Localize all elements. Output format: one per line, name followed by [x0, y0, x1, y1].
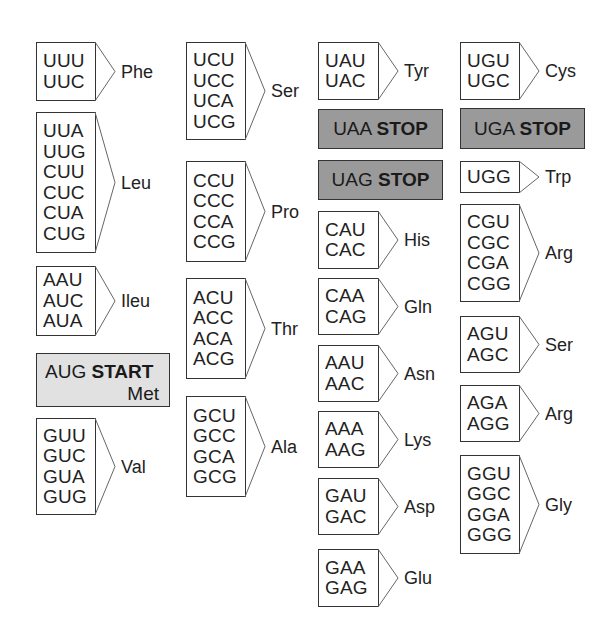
amino-acid-label: Gly: [545, 494, 572, 515]
codon: CCA: [193, 212, 245, 233]
codon: CGG: [467, 274, 519, 295]
codon: GAU: [325, 486, 378, 507]
bracket-chevron-icon: [245, 161, 267, 262]
amino-acid-label: Asn: [404, 363, 435, 384]
codon-group: GGUGGCGGAGGGGly: [460, 455, 600, 554]
codon: CUC: [43, 183, 95, 204]
codon: GAG: [325, 578, 378, 599]
codon-group: AAUAACAsn: [318, 345, 458, 402]
codon-group: UUAUUGCUUCUCCUACUGLeu: [36, 112, 176, 253]
codon-box: AAAAAG: [318, 411, 379, 468]
codon: UAG: [332, 169, 373, 190]
codon: GAC: [325, 507, 378, 528]
bracket-chevron-icon: [378, 411, 400, 468]
codon: CCU: [193, 171, 245, 192]
codon: UAU: [325, 51, 378, 72]
amino-acid-label: Thr: [271, 318, 298, 339]
codon-group: GAAGAGGlu: [318, 549, 458, 607]
codon: UGA: [474, 118, 514, 139]
codon: UGC: [467, 71, 519, 92]
codon-box: UUAUUGCUUCUCCUACUG: [36, 112, 96, 253]
codon: AAU: [43, 270, 95, 291]
codon-group: UUUUUCPhe: [36, 42, 176, 101]
codon: UGG: [467, 167, 519, 188]
codon: AGC: [467, 345, 519, 366]
stop-label: STOP: [376, 118, 427, 139]
codon: UAA: [333, 118, 371, 139]
codon-group: UGUUGCCys: [460, 42, 600, 100]
codon-group: UGGTrp: [460, 161, 600, 193]
bracket-chevron-icon: [378, 345, 400, 402]
bracket-chevron-icon: [95, 112, 117, 253]
bracket-chevron-icon: [245, 42, 267, 140]
codon: CAG: [325, 307, 378, 328]
codon: UUA: [43, 121, 95, 142]
codon: CAA: [325, 286, 378, 307]
codon: UGU: [467, 51, 519, 72]
codon-box: CAUCAC: [318, 211, 379, 269]
codon-box: UGUUGC: [460, 42, 520, 100]
codon: UUG: [43, 142, 95, 163]
codon-box: UUUUUC: [36, 42, 96, 101]
codon-box: AGAAGG: [460, 385, 520, 442]
codon: AUA: [43, 311, 95, 332]
codon: CAC: [325, 240, 378, 261]
codon: AAC: [325, 374, 378, 395]
codon-group: CCUCCCCCACCGPro: [186, 161, 326, 262]
codon: UCA: [193, 91, 245, 112]
bracket-chevron-icon: [378, 278, 400, 335]
codon: AUC: [43, 291, 95, 312]
codon-box: GCUGCCGCAGCG: [186, 396, 246, 497]
codon: CUG: [43, 224, 95, 245]
amino-acid-label: Ser: [271, 81, 299, 102]
codon: CGU: [467, 212, 519, 233]
codon: CCC: [193, 191, 245, 212]
codon: CGC: [467, 233, 519, 254]
codon: CUU: [43, 162, 95, 183]
amino-acid-label: Lys: [404, 429, 431, 450]
codon-group: AGUAGCSer: [460, 316, 600, 373]
codon: GUC: [43, 446, 95, 467]
bracket-chevron-icon: [245, 396, 267, 497]
start-codon-box: AUG STARTMet: [36, 353, 170, 407]
codon: GUU: [43, 426, 95, 447]
bracket-chevron-icon: [378, 211, 400, 269]
codon: AGG: [467, 414, 519, 435]
codon-group: AGAAGGArg: [460, 385, 600, 442]
amino-acid-label: Phe: [121, 61, 153, 82]
codon-group: GAUGACAsp: [318, 478, 458, 535]
codon-group: CAACAGGln: [318, 278, 458, 335]
bracket-chevron-icon: [95, 418, 117, 515]
amino-acid-label: Cys: [545, 61, 576, 82]
amino-acid-label: Asp: [404, 496, 435, 517]
amino-acid-label: Ser: [545, 334, 573, 355]
codon: GAA: [325, 558, 378, 579]
stop-label: STOP: [378, 169, 429, 190]
codon-group: AAAAAGLys: [318, 411, 458, 468]
codon: AUG: [45, 361, 86, 382]
codon: UAC: [325, 71, 378, 92]
codon-box: AGUAGC: [460, 316, 520, 373]
codon-group: CGUCGCCGACGGArg: [460, 204, 600, 302]
bracket-chevron-icon: [95, 266, 117, 336]
bracket-chevron-icon: [378, 42, 400, 100]
codon: AAA: [325, 419, 378, 440]
bracket-chevron-icon: [95, 42, 117, 101]
codon-box: UCUUCCUCAUCG: [186, 42, 246, 140]
amino-acid-label: Leu: [121, 172, 151, 193]
amino-acid-label: Tyr: [404, 61, 429, 82]
stop-codon-box: UAA STOP: [318, 109, 443, 149]
codon-box: AAUAUCAUA: [36, 266, 96, 336]
amino-acid-label: Ala: [271, 436, 297, 457]
codon: CAU: [325, 220, 378, 241]
codon-group: GCUGCCGCAGCGAla: [186, 396, 326, 497]
codon: UCG: [193, 112, 245, 133]
codon-box: CCUCCCCCACCG: [186, 161, 246, 262]
codon: GCU: [193, 406, 245, 427]
amino-acid-label: Trp: [545, 167, 571, 188]
codon: CGA: [467, 253, 519, 274]
codon-group: CAUCACHis: [318, 211, 458, 269]
codon: GCC: [193, 426, 245, 447]
codon: AGU: [467, 324, 519, 345]
codon-box: GGUGGCGGAGGG: [460, 455, 520, 554]
